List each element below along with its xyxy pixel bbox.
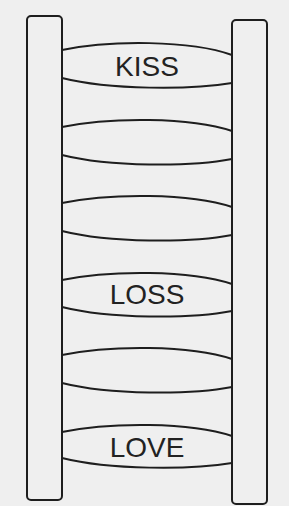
right-rail: [232, 20, 267, 504]
rung-2: [62, 120, 232, 165]
rung-3: [62, 196, 232, 241]
rung-label-love: LOVE: [62, 434, 232, 462]
rung-label-loss: LOSS: [62, 281, 232, 309]
rung-label-kiss: KISS: [62, 53, 232, 81]
left-rail: [27, 16, 62, 500]
rung-5: [62, 348, 232, 393]
